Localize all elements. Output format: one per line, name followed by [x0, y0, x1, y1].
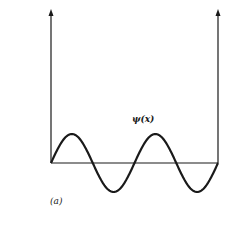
right-arrow-head-icon: [216, 9, 221, 16]
wavefunction-label: ψ(x): [132, 114, 154, 124]
wavefunction-diagram: [0, 0, 234, 230]
left-arrow-head-icon: [49, 9, 54, 16]
panel-label: (a): [50, 196, 62, 206]
